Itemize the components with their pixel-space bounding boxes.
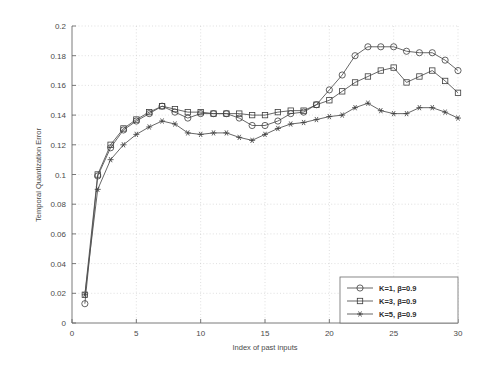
y-tick-label: 0.08 bbox=[50, 200, 66, 209]
y-tick-label: 0.16 bbox=[50, 81, 66, 90]
y-tick-label: 0 bbox=[62, 319, 67, 328]
y-tick-label: 0.2 bbox=[55, 22, 67, 31]
y-tick-label: 0.02 bbox=[50, 289, 66, 298]
x-tick-label: 20 bbox=[325, 329, 334, 338]
legend-entry-label: K=3, β=0.9 bbox=[379, 297, 417, 306]
y-tick-label: 0.06 bbox=[50, 230, 66, 239]
y-tick-label: 0.1 bbox=[55, 171, 67, 180]
y-tick-label: 0.04 bbox=[50, 260, 66, 269]
y-tick-label: 0.14 bbox=[50, 111, 66, 120]
x-tick-label: 10 bbox=[196, 329, 205, 338]
x-tick-label: 5 bbox=[134, 329, 139, 338]
y-axis-label: Temporal Quantization Error bbox=[34, 128, 43, 222]
legend-entry-label: K=1, β=0.9 bbox=[379, 284, 417, 293]
x-axis-label: Index of past inputs bbox=[232, 343, 297, 352]
x-tick-label: 0 bbox=[70, 329, 75, 338]
x-tick-label: 30 bbox=[454, 329, 463, 338]
y-tick-label: 0.12 bbox=[50, 141, 66, 150]
temporal-quantization-error-chart: 00.020.040.060.080.10.120.140.160.180.2 … bbox=[0, 0, 495, 368]
x-tick-label: 25 bbox=[389, 329, 398, 338]
y-tick-label: 0.18 bbox=[50, 52, 66, 61]
legend-entry-label: K=5, β=0.9 bbox=[379, 310, 417, 319]
x-tick-label: 15 bbox=[261, 329, 270, 338]
legend: K=1, β=0.9K=3, β=0.9K=5, β=0.9 bbox=[340, 277, 458, 323]
